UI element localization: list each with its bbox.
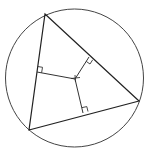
geometry-diagram xyxy=(0,0,147,154)
right-angle-markers xyxy=(38,60,93,112)
inscribed-triangle xyxy=(29,14,139,130)
perpendicular-to-left-side xyxy=(37,72,75,79)
perpendicular-segments xyxy=(37,57,89,113)
perpendicular-to-bottom-side xyxy=(75,79,83,113)
perpendicular-to-right-side xyxy=(75,57,89,79)
center-point-mark xyxy=(71,75,80,82)
